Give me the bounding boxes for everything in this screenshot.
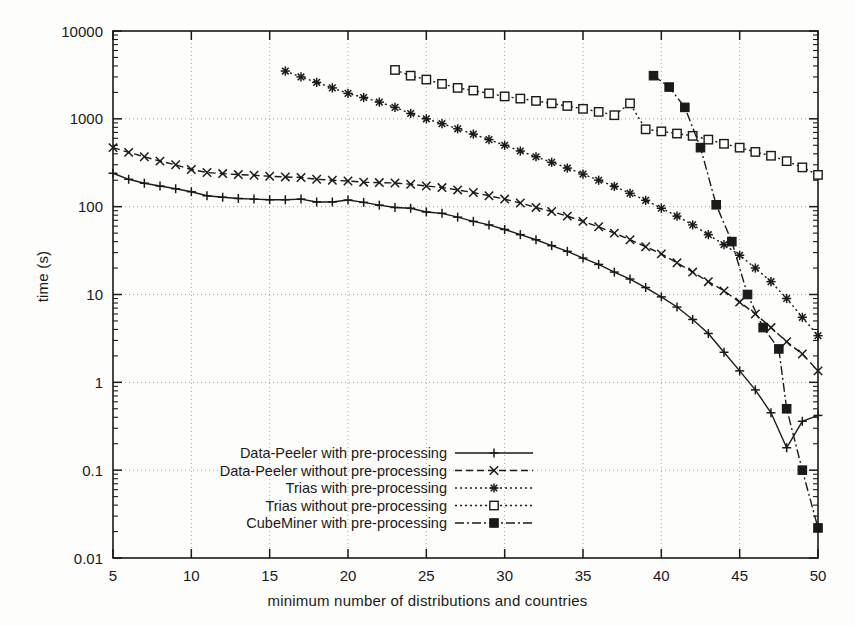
- y-axis-title: time (s): [34, 217, 51, 337]
- marker-square-filled: [490, 519, 498, 527]
- y-axis-title-text: time (s): [34, 251, 51, 303]
- marker-square-filled: [728, 237, 736, 245]
- legend-label: CubeMiner with pre-processing: [246, 515, 447, 531]
- marker-square-filled: [696, 143, 704, 151]
- marker-square-open: [547, 99, 555, 107]
- x-tick-label: 5: [109, 567, 117, 584]
- marker-square-open: [532, 97, 540, 105]
- y-tick-label: 1: [95, 374, 103, 391]
- legend-label: Trias without pre-processing: [265, 498, 447, 514]
- y-tick-label: 0.1: [82, 462, 103, 479]
- marker-square-filled: [665, 83, 673, 91]
- marker-square-open: [814, 171, 822, 179]
- legend-label: Data-Peeler with pre-processing: [240, 445, 447, 461]
- marker-square-filled: [798, 466, 806, 474]
- marker-square-open: [626, 99, 634, 107]
- marker-square-open: [735, 143, 743, 151]
- marker-square-open: [438, 80, 446, 88]
- marker-square-filled: [712, 201, 720, 209]
- marker-square-open: [406, 71, 414, 79]
- marker-square-open: [453, 84, 461, 92]
- marker-square-open: [657, 127, 665, 135]
- marker-square-filled: [743, 290, 751, 298]
- marker-square-open: [485, 89, 493, 97]
- marker-square-filled: [681, 103, 689, 111]
- series-2: [109, 143, 822, 375]
- chart-plot-area: 0.010.1110100100010000510152025303540455…: [0, 0, 855, 626]
- marker-square-open: [767, 152, 775, 160]
- series-5: [649, 71, 822, 532]
- marker-square-open: [751, 148, 759, 156]
- marker-square-filled: [782, 405, 790, 413]
- marker-square-filled: [814, 524, 822, 532]
- chart-figure: 0.010.1110100100010000510152025303540455…: [0, 0, 855, 626]
- marker-square-open: [490, 501, 498, 509]
- legend: Data-Peeler with pre-processingData-Peel…: [220, 445, 533, 531]
- legend-label: Trias with pre-processing: [286, 480, 447, 496]
- marker-square-open: [516, 94, 524, 102]
- marker-square-open: [469, 86, 477, 94]
- series-line: [113, 173, 818, 447]
- marker-square-filled: [649, 71, 657, 79]
- x-tick-label: 20: [340, 567, 357, 584]
- series-1: [109, 169, 823, 452]
- marker-square-open: [673, 129, 681, 137]
- marker-square-filled: [759, 323, 767, 331]
- x-tick-label: 35: [575, 567, 592, 584]
- x-tick-label: 45: [731, 567, 748, 584]
- marker-square-open: [594, 108, 602, 116]
- marker-square-open: [782, 157, 790, 165]
- y-tick-label: 10000: [61, 23, 103, 40]
- x-tick-label: 10: [183, 567, 200, 584]
- x-axis-title: minimum number of distributions and coun…: [0, 592, 855, 609]
- marker-square-open: [610, 111, 618, 119]
- marker-square-open: [563, 102, 571, 110]
- marker-square-open: [798, 163, 806, 171]
- marker-square-open: [391, 66, 399, 74]
- y-tick-label: 1000: [70, 110, 103, 127]
- y-tick-label: 10: [86, 286, 103, 303]
- marker-square-open: [704, 135, 712, 143]
- series-4: [391, 66, 822, 179]
- x-tick-label: 50: [810, 567, 827, 584]
- marker-square-open: [641, 125, 649, 133]
- marker-square-open: [579, 105, 587, 113]
- x-tick-label: 25: [418, 567, 435, 584]
- x-tick-label: 40: [653, 567, 670, 584]
- x-tick-label: 15: [261, 567, 278, 584]
- marker-square-filled: [775, 345, 783, 353]
- y-tick-label: 100: [78, 198, 103, 215]
- series-line: [285, 71, 818, 336]
- x-tick-label: 30: [496, 567, 513, 584]
- marker-square-open: [720, 140, 728, 148]
- marker-square-open: [500, 92, 508, 100]
- legend-label: Data-Peeler without pre-processing: [220, 463, 447, 479]
- y-tick-label: 0.01: [74, 550, 103, 567]
- grid-lines: [113, 31, 818, 558]
- x-axis-title-text: minimum number of distributions and coun…: [268, 592, 588, 609]
- marker-square-open: [422, 75, 430, 83]
